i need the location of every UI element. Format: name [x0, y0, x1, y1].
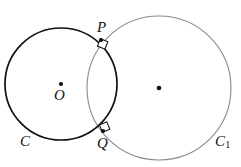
geometry-canvas [0, 0, 241, 167]
label-circle-c: C [20, 134, 30, 149]
label-point-q: Q [97, 136, 108, 151]
center-dot-o [59, 82, 63, 86]
geometry-figure: P Q O C C1 [0, 0, 241, 167]
point-dot-q [101, 129, 105, 133]
label-circle-c1-base: C [215, 133, 225, 149]
label-circle-c1-subscript: 1 [225, 139, 230, 150]
point-dot-p [99, 38, 103, 42]
label-center-o: O [54, 88, 65, 103]
label-point-p: P [97, 20, 106, 35]
label-circle-c1: C1 [215, 134, 230, 150]
center-dot-o1 [157, 86, 162, 91]
